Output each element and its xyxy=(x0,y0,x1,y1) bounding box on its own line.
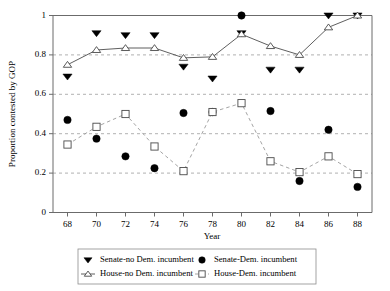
marker-filled-circle xyxy=(296,177,303,184)
legend-label-0: Senate-no Dem. incumbent xyxy=(100,254,194,264)
series-2 xyxy=(63,12,361,67)
y-axis-label: Proportion contested by GOP xyxy=(7,61,17,167)
marker-open-square xyxy=(93,123,100,130)
x-tick-label-72: 72 xyxy=(121,219,130,229)
x-tick-label-84: 84 xyxy=(295,219,305,229)
legend-label-2: House-no Dem. incumbent xyxy=(100,268,193,278)
marker-open-triangle-up xyxy=(266,43,274,49)
marker-filled-triangle-down xyxy=(266,67,275,73)
marker-filled-circle xyxy=(199,257,206,264)
marker-open-square xyxy=(199,271,205,277)
y-tick-label-0: 0 xyxy=(42,207,47,217)
marker-filled-circle xyxy=(93,135,100,142)
marker-filled-circle xyxy=(238,12,245,19)
marker-open-triangle-up xyxy=(324,24,332,30)
marker-filled-triangle-down xyxy=(121,33,130,39)
marker-open-triangle-up xyxy=(63,61,71,67)
marker-open-square xyxy=(209,108,216,115)
y-tick-label-0.6: 0.6 xyxy=(35,88,47,98)
data-series xyxy=(63,12,362,191)
proportion-contested-line-chart: 00.20.40.60.81 6870727476788082848688 Pr… xyxy=(0,0,390,291)
marker-filled-triangle-down xyxy=(63,74,72,80)
y-axis-ticks: 00.20.40.60.81 xyxy=(35,10,53,217)
marker-filled-triangle-down xyxy=(150,33,159,39)
x-tick-label-78: 78 xyxy=(208,219,218,229)
y-tick-label-0.2: 0.2 xyxy=(35,167,46,177)
x-tick-label-88: 88 xyxy=(353,219,363,229)
marker-filled-triangle-down xyxy=(179,64,188,70)
marker-open-square xyxy=(267,158,274,165)
chart-container: 00.20.40.60.81 6870727476788082848688 Pr… xyxy=(0,0,390,291)
x-tick-label-86: 86 xyxy=(324,219,334,229)
chart-legend: Senate-no Dem. incumbentSenate-Dem. incu… xyxy=(78,249,316,284)
x-axis-label: Year xyxy=(204,231,221,241)
marker-open-square xyxy=(296,169,303,176)
marker-open-square xyxy=(122,110,129,117)
legend-entry-1[interactable]: Senate-Dem. incumbent xyxy=(199,254,298,264)
marker-open-square xyxy=(325,153,332,160)
marker-open-square xyxy=(64,141,71,148)
legend-entry-0[interactable]: Senate-no Dem. incumbent xyxy=(84,254,194,264)
series-0 xyxy=(63,13,362,82)
y-tick-label-0.4: 0.4 xyxy=(35,128,47,138)
x-tick-label-80: 80 xyxy=(237,219,247,229)
marker-open-square xyxy=(354,170,361,177)
marker-open-square xyxy=(180,168,187,175)
y-tick-label-1: 1 xyxy=(42,10,47,20)
x-tick-label-76: 76 xyxy=(179,219,189,229)
marker-filled-circle xyxy=(64,116,71,123)
marker-filled-triangle-down xyxy=(295,67,304,73)
marker-filled-triangle-down xyxy=(92,31,101,37)
marker-filled-circle xyxy=(122,153,129,160)
x-tick-label-74: 74 xyxy=(150,219,160,229)
marker-filled-circle xyxy=(180,109,187,116)
marker-filled-triangle-down xyxy=(208,76,217,82)
x-tick-label-70: 70 xyxy=(92,219,102,229)
x-tick-label-68: 68 xyxy=(63,219,73,229)
marker-filled-circle xyxy=(267,107,274,114)
marker-filled-circle xyxy=(325,126,332,133)
marker-filled-circle xyxy=(354,183,361,190)
legend-label-3: House-Dem. incumbent xyxy=(214,268,297,278)
marker-filled-circle xyxy=(151,164,158,171)
x-tick-label-82: 82 xyxy=(266,219,275,229)
marker-open-square xyxy=(151,143,158,150)
marker-open-square xyxy=(238,100,245,107)
y-tick-label-0.8: 0.8 xyxy=(35,49,47,59)
series-3 xyxy=(64,100,361,178)
x-axis-ticks: 6870727476788082848688 xyxy=(63,213,363,229)
legend-label-1: Senate-Dem. incumbent xyxy=(214,254,298,264)
